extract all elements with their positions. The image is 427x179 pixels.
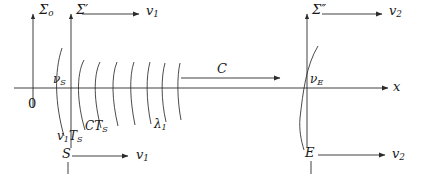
wavefront-arc-4 (113, 62, 118, 126)
received-wavefront-arc (300, 46, 318, 150)
v1-bottom-label: v1 (136, 148, 149, 163)
v2-top-right-label: v2 (389, 4, 402, 19)
nu-s-label: νS (53, 73, 66, 86)
x-axis-label: x (393, 80, 400, 93)
wavefront-arc-6 (147, 62, 151, 124)
c-label: C (217, 62, 227, 75)
s-label: S (62, 147, 71, 160)
wavefront-arc-1 (57, 48, 64, 136)
v2-bottom-label: v2 (392, 147, 405, 162)
nu-e-label: νE (310, 73, 323, 86)
wavefront-arc-5 (131, 62, 135, 125)
origin-label: 0 (28, 97, 36, 110)
sigma-double-prime-label: Σ″ (312, 3, 326, 16)
sigma-o-label: Σo (39, 3, 54, 18)
wavefront-arc-8 (178, 63, 181, 120)
e-label: E (305, 146, 315, 159)
sigma-prime-label: Σ′ (76, 3, 88, 16)
v1-ts-label: v1TS (57, 130, 83, 143)
wavefront-arc-7 (162, 63, 166, 122)
cts-label: CTS (85, 120, 108, 133)
lambda1-label: λ1 (154, 118, 167, 131)
v1-top-left-label: v1 (146, 4, 159, 19)
doppler-wavefront-figure: Σo Σ′ v1 Σ″ v2 νS νE 0 x v1TS CTS λ1 C S… (0, 0, 427, 179)
